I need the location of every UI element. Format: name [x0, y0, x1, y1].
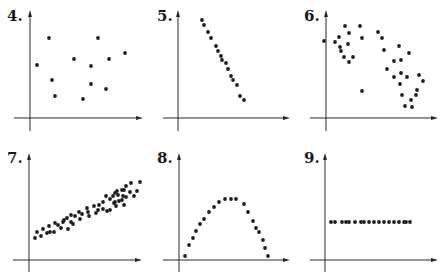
data-point — [220, 58, 224, 62]
data-point — [337, 35, 341, 39]
data-point — [235, 83, 239, 87]
data-point — [403, 104, 407, 108]
data-point — [347, 60, 351, 64]
data-point — [207, 210, 211, 214]
data-point — [263, 246, 267, 250]
data-point — [346, 42, 350, 46]
data-point — [372, 220, 376, 224]
data-point — [353, 220, 357, 224]
data-point — [132, 194, 136, 198]
data-point — [399, 58, 403, 62]
scatter-plot-7 — [13, 153, 142, 272]
data-point — [408, 220, 412, 224]
data-point — [96, 36, 100, 40]
y-axis-arrow-icon — [28, 10, 32, 17]
data-point — [340, 220, 344, 224]
plot-label-4: 4. — [7, 9, 23, 24]
scatter-plot-grid — [0, 0, 442, 280]
data-point — [251, 219, 255, 223]
data-point — [78, 217, 82, 221]
data-point — [238, 94, 242, 98]
data-point — [367, 220, 371, 224]
data-point — [86, 210, 90, 214]
data-point — [124, 184, 128, 188]
data-point — [89, 82, 93, 86]
data-point — [421, 79, 425, 83]
data-point — [342, 55, 346, 59]
data-point — [322, 39, 326, 43]
data-point — [122, 188, 126, 192]
data-point — [115, 189, 119, 193]
data-point — [216, 49, 220, 53]
data-point — [409, 98, 413, 102]
data-point — [138, 180, 142, 184]
data-point — [410, 105, 414, 109]
data-point — [123, 51, 127, 55]
data-point — [35, 63, 39, 67]
data-point — [242, 98, 246, 102]
data-point — [415, 88, 419, 92]
data-point — [400, 93, 404, 97]
data-point — [254, 226, 258, 230]
data-point — [128, 190, 132, 194]
data-point — [397, 220, 401, 224]
data-point — [214, 44, 218, 48]
data-point — [360, 36, 364, 40]
data-point — [59, 226, 63, 230]
data-point — [407, 51, 411, 55]
data-point — [92, 204, 96, 208]
data-point — [65, 216, 69, 220]
data-point — [392, 75, 396, 79]
data-point — [246, 210, 250, 214]
data-point — [200, 18, 204, 22]
y-axis-arrow-icon — [324, 10, 328, 17]
data-point — [392, 220, 396, 224]
plot-label-6: 6. — [304, 9, 320, 24]
scatter-plot-5 — [163, 10, 290, 131]
data-point — [261, 238, 265, 242]
x-axis-arrow-icon — [431, 116, 438, 120]
data-point — [224, 61, 228, 65]
x-axis-arrow-icon — [431, 258, 438, 262]
data-point — [108, 208, 112, 212]
plot-label-8: 8. — [157, 151, 173, 166]
data-point — [417, 73, 421, 77]
data-point — [405, 75, 409, 79]
data-point — [97, 203, 101, 207]
plot-label-7: 7. — [7, 151, 23, 166]
data-point — [339, 49, 343, 53]
data-point — [33, 236, 37, 240]
data-point — [85, 206, 89, 210]
scatter-plot-4 — [14, 10, 143, 131]
data-point — [414, 93, 418, 97]
data-point — [351, 55, 355, 59]
data-point — [385, 67, 389, 71]
data-point — [202, 217, 206, 221]
plot-label-9: 9. — [304, 151, 320, 166]
data-point — [266, 254, 270, 258]
data-point — [101, 200, 105, 204]
data-point — [377, 220, 381, 224]
x-axis-arrow-icon — [283, 116, 290, 120]
data-point — [392, 59, 396, 63]
data-point — [113, 200, 117, 204]
data-point — [257, 230, 261, 234]
data-point — [66, 227, 70, 231]
data-point — [50, 78, 54, 82]
data-point — [39, 234, 43, 238]
data-point — [387, 220, 391, 224]
data-point — [56, 223, 60, 227]
data-point — [347, 31, 351, 35]
data-point — [229, 74, 233, 78]
data-point — [108, 197, 112, 201]
data-point — [209, 36, 213, 40]
data-point — [124, 195, 128, 199]
data-point — [212, 205, 216, 209]
data-point — [80, 212, 84, 216]
data-point — [380, 36, 384, 40]
data-point — [358, 24, 362, 28]
y-axis-arrow-icon — [176, 10, 180, 17]
scatter-plot-8 — [163, 153, 290, 272]
data-point — [398, 82, 402, 86]
data-point — [376, 30, 380, 34]
